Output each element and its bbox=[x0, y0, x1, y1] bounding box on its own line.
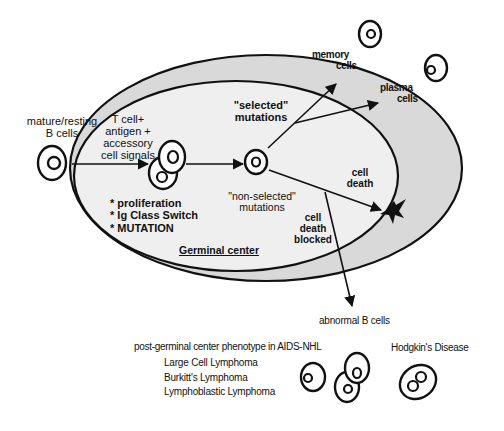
resting-b-cell-icon bbox=[38, 146, 66, 180]
non-selected-mutations-label: "non-selected" mutations bbox=[222, 191, 302, 214]
memory-cells-label: memory cells bbox=[312, 50, 357, 72]
blocked-line3: blocked bbox=[291, 235, 335, 246]
mutated-b-cell-icon bbox=[245, 150, 267, 174]
blocked-line2: death bbox=[291, 224, 335, 235]
phenotype-list: Large Cell Lymphoma Burkitt's Lymphoma L… bbox=[164, 356, 275, 400]
memory-line2: cells bbox=[312, 61, 357, 72]
phenotype-large-cell: Large Cell Lymphoma bbox=[164, 356, 275, 371]
process-class-switch: * Ig Class Switch bbox=[110, 209, 198, 221]
activation-line4: cell signals bbox=[98, 150, 158, 162]
plasma-line2: cells bbox=[380, 94, 418, 105]
non-selected-line2: mutations bbox=[222, 202, 302, 213]
abnormal-b-cells-label: abnormal B cells bbox=[319, 316, 390, 327]
phenotype-burkitt: Burkitt's Lymphoma bbox=[164, 371, 275, 386]
cell-death-blocked-label: cell death blocked bbox=[291, 213, 335, 245]
plasma-cells-label: plasma cells bbox=[380, 83, 418, 105]
plasma-cell-icon bbox=[425, 55, 447, 81]
mature-resting-label: mature/resting B cells bbox=[22, 116, 102, 140]
selected-line2: mutations bbox=[226, 112, 296, 124]
activation-line3: accessory bbox=[98, 138, 158, 150]
cell-death-line2: death bbox=[338, 179, 382, 190]
cell-death-label: cell death bbox=[338, 168, 382, 190]
activation-line2: antigen + bbox=[98, 126, 158, 138]
activation-signals-label: T cell+ antigen + accessory cell signals bbox=[98, 114, 158, 162]
lymphoma-dividing-cells-icon bbox=[335, 353, 369, 402]
process-mutation: * MUTATION bbox=[110, 222, 198, 234]
selected-mutations-label: "selected" mutations bbox=[226, 100, 296, 124]
phenotype-lymphoblastic: Lymphoblastic Lymphoma bbox=[164, 385, 275, 400]
germinal-center-label: Germinal center bbox=[176, 245, 262, 256]
germinal-center-diagram: mature/resting B cells T cell+ antigen +… bbox=[0, 0, 504, 431]
phenotype-heading: post-germinal center phenotype in AIDS-N… bbox=[134, 342, 322, 353]
process-proliferation: * proliferation bbox=[110, 197, 198, 209]
memory-cell-icon bbox=[359, 21, 381, 47]
mature-resting-line2: B cells bbox=[22, 128, 102, 140]
process-list: * proliferation * Ig Class Switch * MUTA… bbox=[110, 197, 198, 234]
reed-sternberg-cell-icon bbox=[393, 358, 442, 406]
hodgkins-disease-label: Hodgkin's Disease bbox=[391, 343, 468, 354]
lymphoma-cell-icon bbox=[301, 363, 325, 391]
